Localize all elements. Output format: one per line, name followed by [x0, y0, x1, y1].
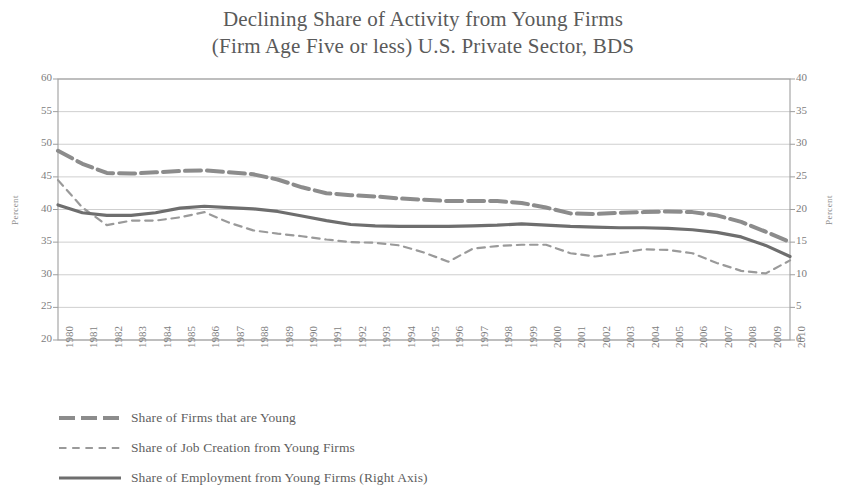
x-axis-label: 1996: [453, 326, 465, 348]
x-axis-label: 2000: [551, 326, 563, 348]
y-axis-right-label: 40: [796, 71, 822, 83]
x-axis-label: 2006: [697, 326, 709, 348]
x-axis-label: 2002: [600, 326, 612, 348]
x-axis-label: 1995: [429, 326, 441, 348]
y-axis-right-label: 30: [796, 136, 822, 148]
chart-legend: Share of Firms that are YoungShare of Jo…: [57, 403, 817, 493]
y-axis-left-label: 50: [26, 136, 52, 148]
x-axis-label: 1999: [527, 326, 539, 348]
x-axis-label: 1985: [185, 326, 197, 348]
y-axis-left-label: 20: [26, 332, 52, 344]
y-axis-right-label: 20: [796, 202, 822, 214]
y-axis-title-left: Percent: [10, 184, 20, 236]
y-axis-left-label: 25: [26, 299, 52, 311]
chart-canvas: [0, 0, 846, 404]
y-axis-right-label: 15: [796, 234, 822, 246]
y-axis-left-label: 60: [26, 71, 52, 83]
x-axis-label: 1982: [112, 326, 124, 348]
x-axis-label: 1992: [356, 326, 368, 348]
plot-area: Percent Percent 605550454035302520 40353…: [0, 0, 846, 404]
x-axis-label: 1981: [87, 326, 99, 348]
legend-item[interactable]: Share of Job Creation from Young Firms: [57, 433, 817, 463]
x-axis-label: 1984: [161, 326, 173, 348]
y-axis-right-label: 5: [796, 299, 822, 311]
x-axis-label: 1989: [283, 326, 295, 348]
x-axis-label: 2005: [673, 326, 685, 348]
legend-swatch-line: [57, 411, 123, 425]
legend-label: Share of Employment from Young Firms (Ri…: [131, 470, 428, 486]
legend-swatch-line: [57, 441, 123, 455]
x-axis-label: 2003: [624, 326, 636, 348]
x-axis-label: 1986: [209, 326, 221, 348]
legend-label: Share of Firms that are Young: [131, 410, 296, 426]
x-axis-label: 1990: [307, 326, 319, 348]
y-axis-left-label: 45: [26, 169, 52, 181]
legend-swatch-line: [57, 471, 123, 485]
x-axis-label: 1997: [478, 326, 490, 348]
y-axis-right-label: 35: [796, 104, 822, 116]
y-axis-left-label: 35: [26, 234, 52, 246]
x-axis-label: 2004: [649, 326, 661, 348]
y-axis-title-right: Percent: [824, 184, 834, 236]
x-axis-label: 1980: [63, 326, 75, 348]
y-axis-right-label: 10: [796, 267, 822, 279]
y-axis-left-label: 40: [26, 202, 52, 214]
y-axis-left-label: 30: [26, 267, 52, 279]
legend-item[interactable]: Share of Employment from Young Firms (Ri…: [57, 463, 817, 493]
x-axis-label: 1987: [234, 326, 246, 348]
x-axis-label: 1988: [258, 326, 270, 348]
x-axis-label: 1998: [502, 326, 514, 348]
legend-item[interactable]: Share of Firms that are Young: [57, 403, 817, 433]
chart-page: Declining Share of Activity from Young F…: [0, 0, 846, 494]
x-axis-label: 2008: [746, 326, 758, 348]
x-axis-label: 2001: [575, 326, 587, 348]
legend-label: Share of Job Creation from Young Firms: [131, 440, 355, 456]
x-axis-label: 1993: [380, 326, 392, 348]
x-axis-label: 1991: [331, 326, 343, 348]
x-axis-label: 1994: [405, 326, 417, 348]
x-axis-label: 1983: [136, 326, 148, 348]
y-axis-left-label: 55: [26, 104, 52, 116]
y-axis-right-label: 25: [796, 169, 822, 181]
x-axis-label: 2007: [722, 326, 734, 348]
x-axis-label: 2009: [771, 326, 783, 348]
x-axis-label: 2010: [795, 326, 807, 348]
